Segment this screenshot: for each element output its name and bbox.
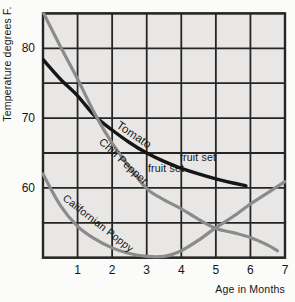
x-tick-1: 1 — [74, 263, 81, 277]
chili-fruit-set-label: fruit set — [148, 162, 184, 174]
x-axis-title: Age in Months — [215, 283, 285, 295]
temperature-age-chart: TomatoChili Pepperfruit setfruit setCali… — [0, 0, 295, 302]
x-tick-3: 3 — [143, 263, 150, 277]
y-axis-title: Temperature degrees F. — [1, 6, 13, 121]
x-tick-5: 5 — [213, 263, 220, 277]
y-tick-70: 70 — [22, 111, 36, 125]
tomato-fruit-set-label: fruit set — [180, 151, 216, 163]
x-tick-6: 6 — [247, 263, 254, 277]
chart-svg: TomatoChili Pepperfruit setfruit setCali… — [0, 0, 295, 302]
plot-area — [43, 13, 285, 257]
y-tick-60: 60 — [22, 181, 36, 195]
y-tick-80: 80 — [22, 41, 36, 55]
x-tick-7: 7 — [282, 263, 289, 277]
x-tick-2: 2 — [109, 263, 116, 277]
x-tick-4: 4 — [178, 263, 185, 277]
